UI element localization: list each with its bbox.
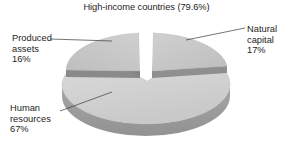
- leader-line-natural-capital: [186, 28, 245, 40]
- slice-label-natural-capital-line1: Natural: [247, 24, 277, 35]
- pie-slice-produced-assets-top: [66, 33, 140, 71]
- slice-label-natural-capital: Natural capital 17%: [247, 24, 277, 56]
- pie-explode-gap: [139, 33, 153, 81]
- slice-label-natural-capital-value: 17%: [247, 45, 277, 56]
- slice-label-human-resources-value: 67%: [10, 124, 51, 135]
- pie-slice-natural-capital-top: [152, 33, 227, 71]
- slice-label-produced-assets-value: 16%: [12, 54, 52, 65]
- slice-label-produced-assets-line2: assets: [12, 44, 52, 55]
- slice-label-natural-capital-line2: capital: [247, 35, 277, 46]
- slice-label-human-resources-line2: resources: [10, 114, 51, 125]
- slice-label-produced-assets: Produced assets 16%: [12, 33, 52, 65]
- pie-slice-natural-capital: [152, 33, 227, 78]
- slice-label-produced-assets-line1: Produced: [12, 33, 52, 44]
- slice-label-human-resources-line1: Human: [10, 103, 51, 114]
- slice-label-human-resources: Human resources 67%: [10, 103, 51, 135]
- pie-slice-produced-assets-side: [66, 70, 140, 78]
- pie-chart-figure: High-income countries (79.6%): [0, 0, 293, 159]
